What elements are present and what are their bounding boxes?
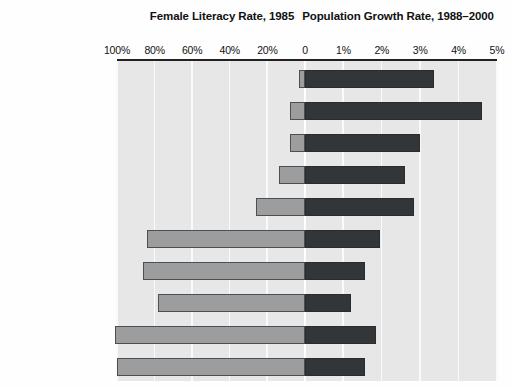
- tick-label: 5%: [477, 44, 513, 56]
- literacy-bar: [143, 262, 305, 280]
- growth-bar: [305, 262, 365, 280]
- tick-label: 2%: [362, 44, 402, 56]
- bar-row: [117, 63, 497, 95]
- plot-area: [117, 61, 497, 381]
- bar-row: [117, 127, 497, 159]
- literacy-bar: [117, 358, 305, 376]
- bar-row: [117, 159, 497, 191]
- tick-label: 0: [285, 44, 325, 56]
- literacy-bar: [256, 198, 305, 216]
- tick-label: 20%: [247, 44, 287, 56]
- tick-label: 60%: [172, 44, 212, 56]
- growth-bar: [305, 358, 365, 376]
- growth-bar: [305, 294, 351, 312]
- growth-bar: [305, 134, 420, 152]
- tick-label: 100%: [97, 44, 137, 56]
- tick-label: 3%: [400, 44, 440, 56]
- growth-bar: [305, 326, 376, 344]
- bar-row: [117, 287, 497, 319]
- right-axis-title: Population Growth Rate, 1988–2000: [300, 10, 496, 23]
- tick-label: 40%: [210, 44, 250, 56]
- literacy-bar: [279, 166, 305, 184]
- bar-row: [117, 255, 497, 287]
- literacy-bar: [290, 134, 305, 152]
- literacy-bar: [115, 326, 305, 344]
- growth-bar: [305, 70, 434, 88]
- literacy-bar: [158, 294, 305, 312]
- bar-row: [117, 95, 497, 127]
- tick-label: 80%: [135, 44, 175, 56]
- literacy-bar: [290, 102, 305, 120]
- bar-row: [117, 351, 497, 383]
- chart-figure: Female Literacy Rate, 1985 Population Gr…: [0, 0, 513, 388]
- growth-bar: [305, 198, 414, 216]
- growth-bar: [305, 102, 482, 120]
- growth-bar: [305, 230, 380, 248]
- tick-label: 1%: [323, 44, 363, 56]
- bar-row: [117, 319, 497, 351]
- tick-label: 4%: [439, 44, 479, 56]
- bar-row: [117, 191, 497, 223]
- literacy-bar: [147, 230, 305, 248]
- bar-row: [117, 223, 497, 255]
- left-axis-title: Female Literacy Rate, 1985: [132, 10, 312, 23]
- growth-bar: [305, 166, 405, 184]
